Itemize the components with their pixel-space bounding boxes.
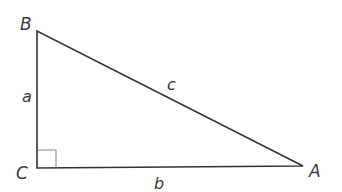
vertex-label-a: A — [308, 161, 321, 181]
right-angle-marker — [37, 150, 56, 168]
side-label-c: c — [167, 75, 176, 94]
vertex-label-c: C — [16, 163, 28, 183]
side-label-b: b — [154, 174, 164, 192]
right-triangle-diagram: B C A a b c — [0, 0, 342, 192]
vertex-label-b: B — [20, 14, 32, 34]
side-label-a: a — [22, 87, 32, 106]
triangle-shape — [37, 31, 303, 168]
